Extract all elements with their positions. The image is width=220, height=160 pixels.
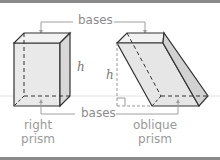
oblique-prism-caption: oblique prism bbox=[125, 118, 185, 146]
top-bracket-right bbox=[114, 22, 145, 30]
oblique-prism bbox=[117, 33, 208, 106]
height-label-oblique-prism: h bbox=[106, 68, 114, 82]
right-prism bbox=[14, 33, 70, 106]
oblique-caption-line2: prism bbox=[125, 132, 185, 146]
bottom-bases-label: bases bbox=[81, 107, 116, 120]
top-bases-label: bases bbox=[78, 14, 113, 27]
bottom-border bbox=[0, 157, 220, 160]
right-prism-caption: right prism bbox=[8, 118, 68, 146]
top-bracket-left bbox=[41, 22, 73, 30]
height-label-right-prism: h bbox=[77, 60, 85, 74]
right-caption-line1: right bbox=[8, 118, 68, 132]
right-caption-line2: prism bbox=[8, 132, 68, 146]
oblique-caption-line1: oblique bbox=[125, 118, 185, 132]
prism-diagram: bases bases h h right prism oblique pris… bbox=[0, 0, 220, 160]
